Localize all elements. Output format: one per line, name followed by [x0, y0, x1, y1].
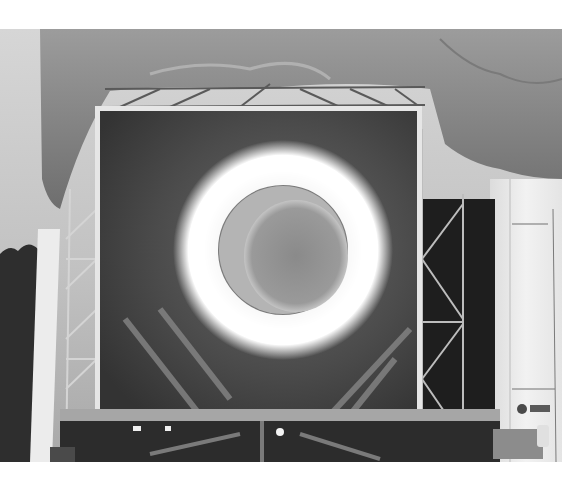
- right-wall: [490, 179, 562, 462]
- scene-illustration: [0, 29, 562, 462]
- inner-disk: [244, 200, 348, 312]
- bottom-deck: [60, 409, 500, 421]
- equipment-box: [493, 429, 543, 459]
- gauge: [517, 404, 527, 414]
- under-structure: [60, 421, 500, 462]
- photograph: [0, 29, 562, 462]
- sign-plate: [530, 405, 550, 412]
- light-fixture: [276, 428, 284, 436]
- equipment-left: [50, 447, 75, 462]
